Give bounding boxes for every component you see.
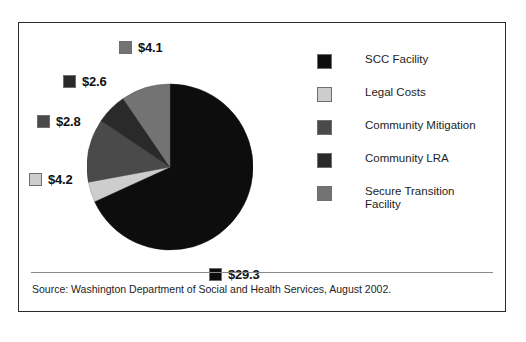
legend-label-scc-facility: SCC Facility — [365, 53, 428, 66]
legend-swatch-secure-transition-facility — [317, 186, 332, 201]
legend-swatch-community-mitigation — [317, 120, 332, 135]
legend-item-community-mitigation: Community Mitigation — [317, 119, 497, 135]
data-label-value-community-lra: $2.6 — [82, 75, 107, 88]
data-label-swatch-community-lra — [63, 75, 76, 88]
legend-swatch-legal-costs — [317, 87, 332, 102]
data-label-swatch-scc-facility — [209, 268, 222, 281]
legend-label-secure-transition-facility: Secure Transition Facility — [365, 185, 455, 211]
data-label-scc-facility: $29.3 — [209, 268, 260, 281]
data-label-community-mitigation: $2.8 — [37, 115, 81, 128]
source-note: Source: Washington Department of Social … — [32, 283, 391, 295]
legend-item-community-lra: Community LRA — [317, 152, 497, 168]
data-label-swatch-secure-transition-facility — [119, 41, 132, 54]
data-label-swatch-community-mitigation — [37, 115, 50, 128]
legend-swatch-community-lra — [317, 153, 332, 168]
legend-label-community-mitigation: Community Mitigation — [365, 119, 476, 132]
pie-chart — [87, 63, 253, 271]
source-divider — [31, 272, 493, 273]
data-label-value-community-mitigation: $2.8 — [56, 115, 81, 128]
data-label-value-secure-transition-facility: $4.1 — [138, 41, 163, 54]
data-label-secure-transition-facility: $4.1 — [119, 41, 163, 54]
data-label-value-legal-costs: $4.2 — [48, 173, 73, 186]
data-label-community-lra: $2.6 — [63, 75, 107, 88]
legend-swatch-scc-facility — [317, 54, 332, 69]
chart-legend: SCC Facility Legal Costs Community Mitig… — [317, 53, 497, 211]
data-label-swatch-legal-costs — [29, 173, 42, 186]
chart-figure-box: $4.1 $2.6 $2.8 $4.2 $29.3 SCC Facility L… — [18, 22, 506, 312]
legend-item-legal-costs: Legal Costs — [317, 86, 497, 102]
data-label-legal-costs: $4.2 — [29, 173, 73, 186]
legend-item-scc-facility: SCC Facility — [317, 53, 497, 69]
legend-label-community-lra: Community LRA — [365, 152, 449, 165]
data-label-value-scc-facility: $29.3 — [228, 268, 260, 281]
legend-label-legal-costs: Legal Costs — [365, 86, 426, 99]
legend-item-secure-transition-facility: Secure Transition Facility — [317, 185, 497, 211]
pie-chart-svg — [87, 63, 253, 271]
